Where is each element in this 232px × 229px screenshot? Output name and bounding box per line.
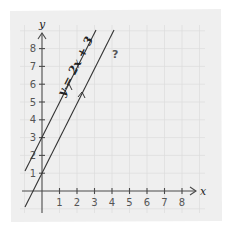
x-axis-label: x <box>200 185 207 198</box>
svg-text:8: 8 <box>30 43 36 54</box>
svg-text:5: 5 <box>30 97 36 108</box>
svg-text:6: 6 <box>30 79 36 90</box>
svg-text:8: 8 <box>179 197 185 208</box>
y-axis-label: y <box>38 18 46 31</box>
svg-text:3: 3 <box>91 197 97 208</box>
svg-text:2: 2 <box>74 197 80 208</box>
svg-text:6: 6 <box>144 197 150 208</box>
svg-text:1: 1 <box>30 168 36 179</box>
unknown-line-label: ? <box>112 48 118 61</box>
coordinate-graph: y x 1 2 3 4 5 6 7 8 1 2 3 4 5 6 7 8 y = … <box>0 0 232 229</box>
svg-text:1: 1 <box>56 197 62 208</box>
svg-text:7: 7 <box>161 197 167 208</box>
svg-text:7: 7 <box>30 61 36 72</box>
svg-text:4: 4 <box>30 114 36 125</box>
graph-paper: y x 1 2 3 4 5 6 7 8 1 2 3 4 5 6 7 8 y = … <box>0 0 232 229</box>
svg-text:5: 5 <box>126 197 132 208</box>
svg-text:3: 3 <box>30 132 36 143</box>
svg-text:4: 4 <box>109 197 115 208</box>
